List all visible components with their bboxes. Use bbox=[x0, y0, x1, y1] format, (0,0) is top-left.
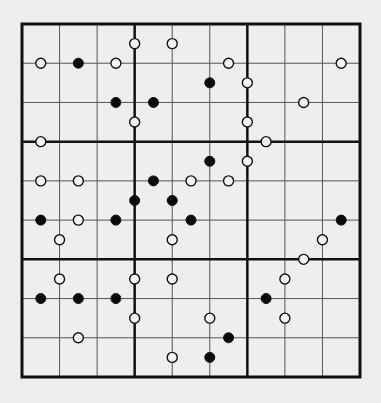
cell-r2c3[interactable] bbox=[97, 63, 135, 102]
cell-r6c7[interactable] bbox=[247, 220, 285, 259]
black-dot-icon bbox=[148, 176, 158, 186]
white-dot-icon bbox=[36, 58, 46, 68]
white-dot-icon bbox=[242, 78, 252, 88]
black-dot-icon bbox=[73, 58, 83, 68]
cell-r9c6[interactable] bbox=[210, 338, 248, 377]
cell-r9c1[interactable] bbox=[22, 338, 60, 377]
cell-r3c8[interactable] bbox=[285, 102, 323, 141]
cell-r5c8[interactable] bbox=[285, 181, 323, 220]
black-dot-icon bbox=[111, 294, 121, 304]
black-dot-icon bbox=[224, 333, 234, 343]
white-dot-icon bbox=[242, 156, 252, 166]
cell-r2c4[interactable] bbox=[135, 63, 173, 102]
cell-r3c5[interactable] bbox=[172, 102, 210, 141]
cell-r8c2[interactable] bbox=[60, 299, 98, 338]
white-dot-icon bbox=[317, 235, 327, 245]
cell-r9c7[interactable] bbox=[247, 338, 285, 377]
black-dot-icon bbox=[205, 156, 215, 166]
cell-r2c1[interactable] bbox=[22, 63, 60, 102]
white-dot-icon bbox=[280, 274, 290, 284]
black-dot-icon bbox=[205, 78, 215, 88]
white-dot-icon bbox=[130, 117, 140, 127]
white-dot-icon bbox=[36, 176, 46, 186]
white-dot-icon bbox=[167, 274, 177, 284]
cell-r1c9[interactable] bbox=[322, 24, 360, 63]
white-dot-icon bbox=[299, 254, 309, 264]
cell-r9c2[interactable] bbox=[60, 338, 98, 377]
white-dot-icon bbox=[130, 274, 140, 284]
white-dot-icon bbox=[242, 117, 252, 127]
black-dot-icon bbox=[148, 97, 158, 107]
cell-r5c4[interactable] bbox=[135, 181, 173, 220]
black-dot-icon bbox=[336, 215, 346, 225]
cell-r2c9[interactable] bbox=[322, 63, 360, 102]
black-dot-icon bbox=[36, 215, 46, 225]
cell-r7c9[interactable] bbox=[322, 259, 360, 298]
cell-r5c9[interactable] bbox=[322, 181, 360, 220]
cell-r5c2[interactable] bbox=[60, 181, 98, 220]
cell-layer bbox=[22, 24, 360, 377]
cell-r4c4[interactable] bbox=[135, 142, 173, 181]
white-dot-icon bbox=[167, 39, 177, 49]
white-dot-icon bbox=[224, 176, 234, 186]
cell-r8c1[interactable] bbox=[22, 299, 60, 338]
black-dot-icon bbox=[205, 352, 215, 362]
cell-r1c1[interactable] bbox=[22, 24, 60, 63]
white-dot-icon bbox=[73, 333, 83, 343]
white-dot-icon bbox=[205, 313, 215, 323]
white-dot-icon bbox=[336, 58, 346, 68]
cell-r5c3[interactable] bbox=[97, 181, 135, 220]
cell-r4c2[interactable] bbox=[60, 142, 98, 181]
white-dot-icon bbox=[261, 137, 271, 147]
black-dot-icon bbox=[261, 294, 271, 304]
cell-r9c8[interactable] bbox=[285, 338, 323, 377]
white-dot-icon bbox=[73, 215, 83, 225]
black-dot-icon bbox=[130, 196, 140, 206]
white-dot-icon bbox=[130, 39, 140, 49]
black-dot-icon bbox=[36, 294, 46, 304]
cell-r5c5[interactable] bbox=[172, 181, 210, 220]
white-dot-icon bbox=[167, 352, 177, 362]
cell-r9c9[interactable] bbox=[322, 338, 360, 377]
cell-r4c5[interactable] bbox=[172, 142, 210, 181]
white-dot-icon bbox=[224, 58, 234, 68]
cell-r6c6[interactable] bbox=[210, 220, 248, 259]
cell-r3c2[interactable] bbox=[60, 102, 98, 141]
cell-r5c7[interactable] bbox=[247, 181, 285, 220]
cell-r1c7[interactable] bbox=[247, 24, 285, 63]
black-dot-icon bbox=[186, 215, 196, 225]
cell-r1c2[interactable] bbox=[60, 24, 98, 63]
cell-r4c3[interactable] bbox=[97, 142, 135, 181]
cell-r5c6[interactable] bbox=[210, 181, 248, 220]
cell-r2c5[interactable] bbox=[172, 63, 210, 102]
cell-r1c8[interactable] bbox=[285, 24, 323, 63]
white-dot-icon bbox=[280, 313, 290, 323]
white-dot-icon bbox=[130, 313, 140, 323]
black-dot-icon bbox=[111, 215, 121, 225]
white-dot-icon bbox=[55, 274, 65, 284]
cell-r4c9[interactable] bbox=[322, 142, 360, 181]
kropki-sudoku-board bbox=[0, 0, 381, 403]
cell-r2c8[interactable] bbox=[285, 63, 323, 102]
white-dot-icon bbox=[167, 235, 177, 245]
black-dot-icon bbox=[167, 196, 177, 206]
black-dot-icon bbox=[111, 97, 121, 107]
cell-r6c3[interactable] bbox=[97, 220, 135, 259]
cell-r9c3[interactable] bbox=[97, 338, 135, 377]
cell-r1c6[interactable] bbox=[210, 24, 248, 63]
cell-r8c9[interactable] bbox=[322, 299, 360, 338]
white-dot-icon bbox=[36, 137, 46, 147]
white-dot-icon bbox=[111, 58, 121, 68]
white-dot-icon bbox=[299, 97, 309, 107]
black-dot-icon bbox=[73, 294, 83, 304]
cell-r7c6[interactable] bbox=[210, 259, 248, 298]
cell-r4c8[interactable] bbox=[285, 142, 323, 181]
puzzle-grid bbox=[0, 0, 381, 403]
cell-r3c9[interactable] bbox=[322, 102, 360, 141]
cell-r5c1[interactable] bbox=[22, 181, 60, 220]
cell-r3c1[interactable] bbox=[22, 102, 60, 141]
white-dot-icon bbox=[55, 235, 65, 245]
white-dot-icon bbox=[73, 176, 83, 186]
cell-r4c1[interactable] bbox=[22, 142, 60, 181]
cell-r2c2[interactable] bbox=[60, 63, 98, 102]
